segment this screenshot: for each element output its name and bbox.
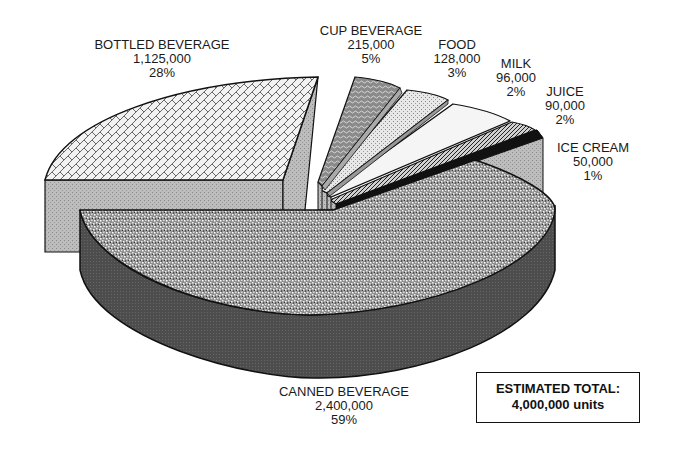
label-percent: 1%: [557, 169, 629, 183]
label-value: 96,000: [496, 71, 536, 85]
label-value: 50,000: [557, 155, 629, 169]
label-percent: 5%: [320, 52, 422, 66]
label-value: 2,400,000: [279, 399, 409, 413]
label-percent: 59%: [279, 413, 409, 427]
label-canned-beverage: CANNED BEVERAGE 2,400,000 59%: [279, 385, 409, 427]
label-value: 90,000: [545, 99, 585, 113]
label-name: CANNED BEVERAGE: [279, 385, 409, 399]
total-value: 4,000,000 units: [477, 397, 639, 413]
label-percent: 2%: [496, 85, 536, 99]
label-value: 128,000: [434, 52, 481, 66]
label-name: CUP BEVERAGE: [320, 24, 422, 38]
label-percent: 2%: [545, 113, 585, 127]
label-ice-cream: ICE CREAM 50,000 1%: [557, 141, 629, 183]
label-name: JUICE: [545, 85, 585, 99]
label-cup-beverage: CUP BEVERAGE 215,000 5%: [320, 24, 422, 66]
label-percent: 28%: [94, 66, 229, 80]
label-juice: JUICE 90,000 2%: [545, 85, 585, 127]
label-value: 1,125,000: [94, 52, 229, 66]
estimated-total-box: ESTIMATED TOTAL: 4,000,000 units: [476, 372, 640, 423]
label-food: FOOD 128,000 3%: [434, 38, 481, 80]
label-name: BOTTLED BEVERAGE: [94, 38, 229, 52]
label-value: 215,000: [320, 38, 422, 52]
label-milk: MILK 96,000 2%: [496, 57, 536, 99]
label-percent: 3%: [434, 66, 481, 80]
total-heading: ESTIMATED TOTAL:: [477, 381, 639, 397]
label-name: MILK: [496, 57, 536, 71]
label-name: ICE CREAM: [557, 141, 629, 155]
label-bottled-beverage: BOTTLED BEVERAGE 1,125,000 28%: [94, 38, 229, 80]
label-name: FOOD: [434, 38, 481, 52]
